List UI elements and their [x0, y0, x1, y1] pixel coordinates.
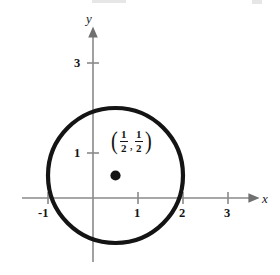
y-tick-label-3: 3 — [74, 57, 80, 70]
x-tick-label-2: 2 — [179, 207, 185, 220]
x-coordinate-fraction: 1 2 — [119, 129, 129, 154]
point-coordinate-label: ( 1 2 , 1 2 ) — [110, 129, 152, 154]
graph-figure: x y -1 1 2 3 1 3 ( 1 2 , 1 2 ) — [0, 0, 280, 275]
y-coordinate-fraction: 1 2 — [134, 129, 144, 154]
x-tick-label-1: 1 — [134, 207, 140, 220]
x-tick-label-3: 3 — [224, 207, 230, 220]
x-tick-label-neg1: -1 — [38, 207, 48, 220]
y-fraction-denominator: 2 — [136, 142, 142, 154]
center-point-marker — [110, 170, 120, 180]
x-fraction-denominator: 2 — [121, 142, 127, 154]
x-fraction-numerator: 1 — [121, 129, 127, 141]
close-paren: ) — [145, 130, 152, 152]
x-axis-label: x — [262, 192, 268, 205]
open-paren: ( — [111, 130, 118, 152]
y-axis-label: y — [86, 12, 92, 25]
y-fraction-numerator: 1 — [136, 129, 142, 141]
y-tick-label-1: 1 — [74, 147, 80, 160]
